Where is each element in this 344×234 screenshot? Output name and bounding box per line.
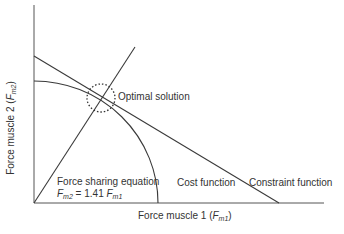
y-axis-label-suffix: ): [5, 81, 16, 84]
eq-rhs-sub: m1: [113, 193, 123, 200]
eq-lhs-sub: m2: [63, 193, 73, 200]
cost-function-label: Cost function: [177, 177, 235, 189]
x-axis-label: Force muscle 1 (Fm1): [138, 210, 232, 225]
optimal-solution-label: Optimal solution: [118, 91, 190, 103]
x-axis-label-text: Force muscle 1 (: [138, 210, 212, 221]
eq-middle: = 1.41: [73, 188, 107, 199]
force-sharing-title: Force sharing equation: [57, 176, 159, 188]
constraint-function-label: Constraint function: [249, 177, 332, 189]
x-axis-subscript: m1: [219, 215, 229, 222]
y-axis-subscript: m2: [10, 85, 17, 95]
y-axis-symbol: F: [5, 94, 16, 100]
y-axis-label: Force muscle 2 (Fm2): [5, 81, 17, 175]
force-sharing-equation: Fm2 = 1.41 Fm1: [57, 188, 122, 203]
x-axis-label-suffix: ): [228, 210, 231, 221]
optimal-solution-marker: [87, 84, 115, 112]
optimization-diagram: [0, 0, 344, 234]
y-axis-label-text: Force muscle 2 (: [5, 100, 16, 174]
